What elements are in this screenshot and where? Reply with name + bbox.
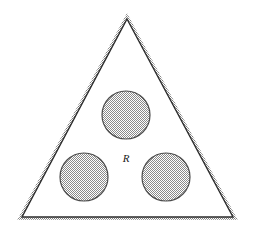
bottom-right-circle	[142, 153, 190, 201]
geometry-diagram: R	[0, 0, 253, 236]
top-circle	[102, 91, 150, 139]
figure-container: R	[0, 0, 253, 236]
bottom-left-circle	[60, 153, 108, 201]
region-label-r: R	[122, 152, 130, 164]
